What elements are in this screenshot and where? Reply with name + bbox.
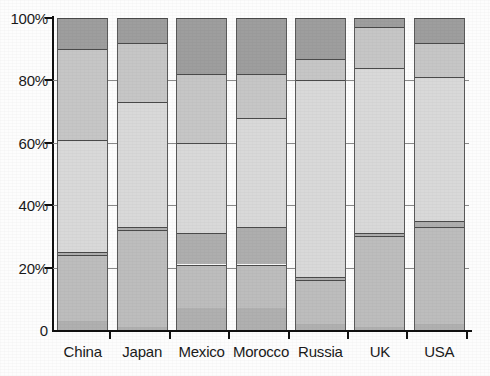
y-tick-label-40: 40% bbox=[2, 197, 48, 214]
bar-segment bbox=[177, 18, 226, 74]
bar-segment bbox=[296, 18, 345, 59]
bar-segment bbox=[58, 49, 107, 139]
bar-segment bbox=[237, 308, 286, 330]
bar-segment bbox=[177, 265, 226, 309]
bar-segment bbox=[355, 18, 404, 27]
x-tick-mark bbox=[228, 332, 230, 339]
bar-segment bbox=[415, 227, 464, 324]
bar-japan[interactable] bbox=[117, 18, 168, 330]
y-tick-label-100: 100% bbox=[2, 10, 48, 27]
x-tick-mark bbox=[347, 332, 349, 339]
bar-segment bbox=[177, 308, 226, 330]
x-axis-label-uk: UK bbox=[370, 343, 390, 360]
x-tick-mark bbox=[406, 332, 408, 339]
x-axis-label-morocco: Morocco bbox=[233, 343, 289, 360]
bar-segment bbox=[177, 233, 226, 264]
x-axis-label-china: China bbox=[64, 343, 102, 360]
y-tick-label-20: 20% bbox=[2, 259, 48, 276]
bar-segment bbox=[355, 68, 404, 233]
bar-segment bbox=[177, 74, 226, 143]
bar-segment bbox=[118, 43, 167, 102]
stacked-bar-chart: 100% 80% 60% 40% 20% 0 ChinaJapanMexicoM… bbox=[0, 0, 490, 376]
bar-uk[interactable] bbox=[354, 18, 405, 330]
bar-mexico[interactable] bbox=[176, 18, 227, 330]
bar-segment bbox=[355, 236, 404, 326]
bar-segment bbox=[118, 227, 167, 230]
y-tick-label-80: 80% bbox=[2, 72, 48, 89]
bar-segment bbox=[58, 140, 107, 252]
y-axis-labels: 100% 80% 60% 40% 20% 0 bbox=[0, 0, 48, 376]
x-axis-label-russia: Russia bbox=[298, 343, 343, 360]
bar-segment bbox=[118, 102, 167, 227]
bar-segment bbox=[296, 324, 345, 330]
bar-segment bbox=[415, 43, 464, 77]
bar-segment bbox=[355, 327, 404, 330]
bar-segment bbox=[118, 18, 167, 43]
bar-segment bbox=[237, 18, 286, 74]
bar-segment bbox=[355, 233, 404, 236]
bar-segment bbox=[237, 118, 286, 227]
bar-segment bbox=[415, 18, 464, 43]
x-axis-label-japan: Japan bbox=[122, 343, 162, 360]
bar-segment bbox=[118, 230, 167, 327]
bar-segment bbox=[355, 27, 404, 68]
bar-segment bbox=[237, 265, 286, 309]
x-tick-mark bbox=[169, 332, 171, 339]
bar-morocco[interactable] bbox=[236, 18, 287, 330]
x-tick-mark bbox=[109, 332, 111, 339]
x-tick-mark bbox=[288, 332, 290, 339]
bar-segment bbox=[58, 18, 107, 49]
plot-area bbox=[53, 18, 469, 330]
bar-segment bbox=[415, 221, 464, 227]
bar-segment bbox=[296, 59, 345, 81]
x-axis-label-mexico: Mexico bbox=[178, 343, 224, 360]
x-tick-mark bbox=[466, 332, 468, 339]
bar-segment bbox=[237, 227, 286, 264]
y-tick-label-0: 0 bbox=[2, 322, 48, 339]
bar-segment bbox=[296, 80, 345, 277]
bar-segment bbox=[237, 74, 286, 118]
x-axis-label-usa: USA bbox=[424, 343, 454, 360]
bar-usa[interactable] bbox=[414, 18, 465, 330]
bar-segment bbox=[58, 255, 107, 321]
bar-china[interactable] bbox=[57, 18, 108, 330]
bar-segment bbox=[415, 77, 464, 221]
bar-segment bbox=[296, 277, 345, 280]
bar-segment bbox=[58, 252, 107, 255]
bar-russia[interactable] bbox=[295, 18, 346, 330]
bar-segment bbox=[177, 143, 226, 233]
bar-segment bbox=[296, 280, 345, 324]
x-axis-line bbox=[52, 330, 472, 332]
bar-segment bbox=[415, 324, 464, 330]
bar-segment bbox=[58, 321, 107, 330]
y-tick-label-60: 60% bbox=[2, 134, 48, 151]
bar-segment bbox=[118, 327, 167, 330]
